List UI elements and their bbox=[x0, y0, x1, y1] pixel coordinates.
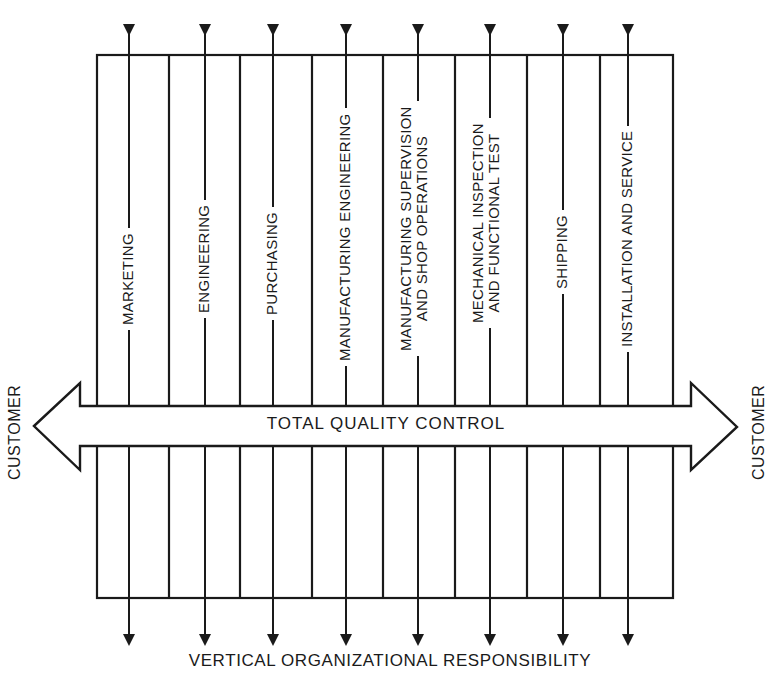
customer-label-right: CUSTOMER bbox=[750, 385, 768, 480]
vertical-responsibility-caption: VERTICAL ORGANIZATIONAL RESPONSIBILITY bbox=[120, 651, 660, 671]
column-label-text: ENGINEERING bbox=[196, 200, 212, 318]
label-line-2: AND FUNCTIONAL TEST bbox=[486, 123, 502, 323]
tqc-diagram: MARKETING ENGINEERING PURCHASING MANUFAC… bbox=[0, 0, 771, 685]
column-label-text: MARKETING bbox=[120, 228, 136, 330]
customer-label-left: CUSTOMER bbox=[6, 385, 24, 480]
column-label-engineering: ENGINEERING bbox=[196, 200, 212, 318]
column-label-purchasing: PURCHASING bbox=[264, 207, 280, 320]
column-label-text: MANUFACTURING ENGINEERING bbox=[337, 108, 353, 366]
column-label-text: INSTALLATION AND SERVICE bbox=[619, 126, 635, 352]
organization-frame bbox=[97, 55, 673, 598]
column-label-text: MECHANICAL INSPECTION AND FUNCTIONAL TES… bbox=[470, 118, 502, 328]
label-line-1: MANUFACTURING SUPERVISION bbox=[398, 106, 414, 351]
column-label-mechanical-inspection: MECHANICAL INSPECTION AND FUNCTIONAL TES… bbox=[470, 118, 502, 328]
column-label-text: MANUFACTURING SUPERVISION AND SHOP OPERA… bbox=[398, 101, 430, 356]
column-label-text: SHIPPING bbox=[554, 210, 570, 294]
column-label-text: PURCHASING bbox=[264, 207, 280, 320]
total-quality-control-label: TOTAL QUALITY CONTROL bbox=[236, 414, 536, 434]
column-label-shipping: SHIPPING bbox=[554, 210, 570, 294]
diagram-lines bbox=[0, 0, 771, 685]
label-line-1: MECHANICAL INSPECTION bbox=[470, 123, 486, 323]
column-label-installation-and-service: INSTALLATION AND SERVICE bbox=[619, 126, 635, 352]
column-label-marketing: MARKETING bbox=[120, 228, 136, 330]
label-line-2: AND SHOP OPERATIONS bbox=[414, 106, 430, 351]
column-label-manufacturing-engineering: MANUFACTURING ENGINEERING bbox=[337, 108, 353, 366]
column-label-manufacturing-supervision: MANUFACTURING SUPERVISION AND SHOP OPERA… bbox=[398, 101, 430, 356]
